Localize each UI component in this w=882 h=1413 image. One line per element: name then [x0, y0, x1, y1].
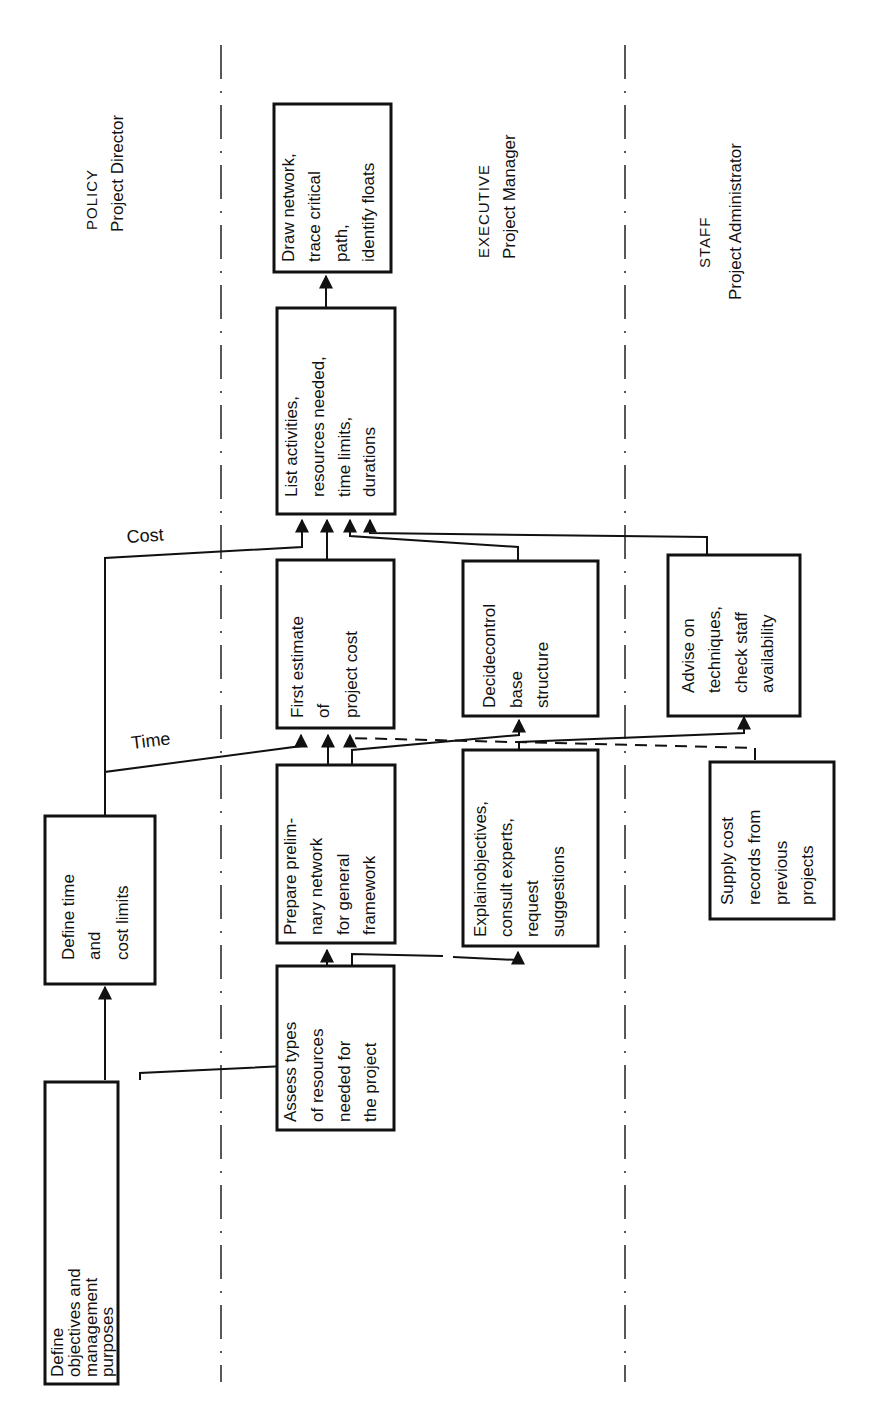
- svg-text:of resources: of resources: [308, 1028, 327, 1122]
- box-prepare-network: Prepare prelim- nary network for general…: [277, 765, 395, 943]
- box-draw-network: Draw network, trace critical path, ident…: [274, 104, 391, 272]
- lane-title-policy: POLICY: [83, 169, 100, 230]
- svg-text:consult experts,: consult experts,: [497, 818, 516, 937]
- lane-role-policy: Project Director: [108, 115, 127, 232]
- svg-text:time limits,: time limits,: [335, 417, 354, 497]
- box-define-objectives-line-4: purposes: [98, 1307, 117, 1377]
- box-first-estimate: First estimate of project cost: [277, 560, 394, 728]
- svg-text:Advise on: Advise on: [679, 618, 698, 693]
- svg-text:path,: path,: [332, 224, 351, 262]
- box-list-activities: List activities, resources needed, time …: [277, 308, 395, 514]
- svg-text:request: request: [523, 880, 542, 937]
- svg-text:availability: availability: [758, 614, 777, 693]
- box-decide-control: Decidecontrol base structure: [463, 561, 598, 716]
- connector-explain-to-advise: [519, 717, 744, 750]
- box-supply-cost-records: Supply cost records from previous projec…: [710, 762, 834, 919]
- svg-text:of: of: [314, 704, 333, 718]
- svg-text:and: and: [85, 932, 104, 960]
- svg-text:check staff: check staff: [732, 612, 751, 693]
- connector-label-time: Time: [130, 728, 171, 753]
- svg-text:the project: the project: [361, 1042, 380, 1122]
- connector-decide-to-list: [350, 520, 518, 560]
- svg-text:projects: projects: [798, 845, 817, 905]
- lane-header-staff: STAFF Project Administrator: [696, 143, 745, 300]
- svg-text:framework: framework: [360, 855, 379, 935]
- lane-header-policy: POLICY Project Director: [83, 115, 127, 232]
- svg-text:base: base: [507, 671, 526, 708]
- svg-text:Explainobjectives,: Explainobjectives,: [471, 801, 490, 937]
- svg-text:durations: durations: [360, 427, 379, 497]
- lane-role-staff: Project Administrator: [726, 143, 745, 300]
- connector-label-cost: Cost: [126, 524, 164, 547]
- svg-text:resources needed,: resources needed,: [309, 356, 328, 497]
- svg-text:Assess types: Assess types: [281, 1022, 300, 1122]
- svg-text:previous: previous: [772, 841, 791, 905]
- svg-text:suggestions: suggestions: [549, 846, 568, 937]
- svg-text:records from: records from: [745, 810, 764, 905]
- box-explain-objectives: Explainobjectives, consult experts, requ…: [463, 750, 598, 946]
- lane-header-executive: EXECUTIVE Project Manager: [475, 134, 519, 259]
- svg-text:cost limits: cost limits: [113, 885, 132, 960]
- svg-text:List activities,: List activities,: [282, 396, 301, 497]
- svg-text:trace critical: trace critical: [305, 171, 324, 262]
- svg-text:needed for: needed for: [335, 1040, 354, 1122]
- connector-assess-to-explain: [352, 952, 518, 965]
- svg-text:techniques,: techniques,: [705, 606, 724, 693]
- svg-text:structure: structure: [533, 642, 552, 708]
- svg-text:for general: for general: [334, 854, 353, 935]
- svg-text:Prepare prelim-: Prepare prelim-: [281, 818, 300, 935]
- lane-title-executive: EXECUTIVE: [475, 164, 492, 258]
- svg-text:First estimate: First estimate: [288, 616, 307, 718]
- process-flow-diagram: POLICY Project Director EXECUTIVE Projec…: [0, 0, 882, 1413]
- svg-text:Define time: Define time: [59, 874, 78, 960]
- svg-text:project cost: project cost: [342, 631, 361, 718]
- svg-text:Draw network,: Draw network,: [279, 153, 298, 262]
- svg-text:Supply cost: Supply cost: [718, 817, 737, 905]
- box-assess-types: Assess types of resources needed for the…: [277, 966, 394, 1130]
- box-define-time-cost: Define time and cost limits: [45, 816, 155, 984]
- lane-title-staff: STAFF: [696, 217, 713, 268]
- svg-text:nary network: nary network: [307, 837, 326, 935]
- connector-advise-to-list: [370, 520, 707, 555]
- box-advise-techniques: Advise on techniques, check staff availa…: [668, 555, 800, 716]
- svg-text:identify floats: identify floats: [359, 163, 378, 262]
- lane-role-executive: Project Manager: [500, 134, 519, 259]
- svg-text:Decidecontrol: Decidecontrol: [480, 604, 499, 708]
